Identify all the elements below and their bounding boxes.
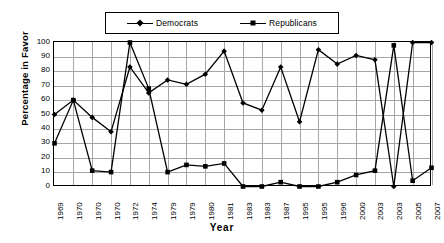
square-marker-icon: [184, 163, 189, 168]
x-axis-tick-label: 1983: [246, 202, 254, 220]
square-marker-icon: [373, 168, 378, 173]
x-axis-tick-label: 1995: [302, 202, 310, 220]
x-axis-tick-label: 2005: [415, 202, 423, 220]
square-marker-icon: [354, 173, 359, 178]
diamond-marker-icon: [429, 40, 435, 46]
series-layer: [54, 42, 432, 187]
x-axis-tick-label: 1974: [151, 202, 159, 220]
y-axis-tick-label: 60: [26, 95, 50, 103]
x-axis-tick-label: 1983: [264, 202, 272, 220]
x-axis-tick-label: 2007: [434, 202, 442, 220]
y-axis-tick-label: 40: [26, 124, 50, 132]
x-axis-title: Year: [0, 222, 444, 233]
y-axis-tick-label: 80: [26, 66, 50, 74]
x-axis-tick-label: 1987: [283, 202, 291, 220]
x-axis-tick-label: 1980: [208, 202, 216, 220]
square-marker-icon: [335, 180, 340, 185]
x-axis-tick-label: 1972: [132, 202, 140, 220]
square-marker-icon: [165, 170, 170, 175]
y-axis-tick-labels: 1009080706050403020100: [23, 41, 50, 186]
legend-label-republicans: Republicans: [269, 18, 317, 28]
y-axis-tick-label: 30: [26, 138, 50, 146]
plot-area: [53, 41, 431, 186]
x-axis-tick-label: 1969: [57, 202, 65, 220]
series-line-democrats: [55, 43, 432, 187]
square-marker-icon: [222, 161, 227, 166]
diamond-marker-icon: [297, 119, 303, 125]
y-axis-tick-label: 70: [26, 81, 50, 89]
diamond-marker-icon: [353, 53, 359, 59]
diamond-marker-icon: [259, 107, 265, 113]
x-axis-tick-label: 1995: [321, 202, 329, 220]
y-axis-tick-label: 90: [26, 52, 50, 60]
x-axis-tick-label: 2003: [377, 202, 385, 220]
x-axis-tick-label: 1981: [227, 202, 235, 220]
legend-label-democrats: Democrats: [156, 18, 198, 28]
square-marker-icon: [278, 180, 283, 185]
square-marker-icon: [429, 165, 434, 170]
x-axis-tick-label: 2000: [359, 202, 367, 220]
plot-frame: [53, 41, 431, 186]
y-axis-tick-label: 10: [26, 167, 50, 175]
square-marker-icon: [71, 98, 76, 103]
diamond-marker-icon: [410, 40, 416, 46]
legend-line-republicans: [240, 23, 266, 24]
x-axis-tick-label: 1970: [114, 202, 122, 220]
square-marker-icon: [203, 164, 208, 169]
x-axis-tick-label: 1970: [76, 202, 84, 220]
square-marker-icon: [392, 43, 397, 48]
x-axis-tick-label: 1970: [95, 202, 103, 220]
chart-legend: Democrats Republicans: [105, 12, 339, 34]
x-axis-tick-labels: 1969197019701970197219741979197919801981…: [53, 189, 431, 223]
legend-line-democrats: [127, 23, 153, 24]
diamond-marker-icon: [278, 64, 284, 70]
square-marker-icon: [109, 170, 114, 175]
y-axis-tick-label: 0: [26, 182, 50, 190]
y-axis-tick-label: 50: [26, 110, 50, 118]
square-marker-icon: [90, 168, 95, 173]
diamond-marker-icon: [240, 100, 246, 106]
y-axis-tick-label: 100: [26, 38, 50, 46]
legend-item-democrats: Democrats: [127, 18, 198, 28]
square-marker-icon: [410, 178, 415, 183]
square-marker-icon: [128, 40, 133, 45]
x-axis-tick-label: 1979: [170, 202, 178, 220]
x-axis-tick-label: 1979: [189, 202, 197, 220]
square-marker-icon: [251, 21, 256, 26]
diamond-marker-icon: [372, 57, 378, 63]
square-marker-icon: [146, 86, 151, 91]
legend-item-republicans: Republicans: [240, 18, 317, 28]
square-marker-icon: [52, 141, 57, 146]
y-axis-tick-label: 20: [26, 153, 50, 161]
x-axis-tick-label: 2003: [396, 202, 404, 220]
diamond-marker-icon: [136, 19, 143, 26]
chart-figure: Democrats Republicans Percentage in Favo…: [0, 0, 444, 243]
diamond-marker-icon: [184, 81, 190, 87]
x-axis-tick-label: 1996: [340, 202, 348, 220]
